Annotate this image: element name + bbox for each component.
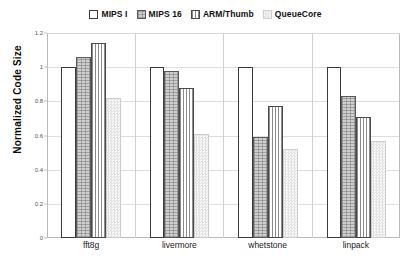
legend-swatch-icon: [89, 10, 98, 19]
y-tick-label: 0.8: [35, 98, 43, 104]
x-axis-label-fft8g: fft8g: [47, 240, 135, 250]
bar-fft8g-mips-16[interactable]: [76, 57, 91, 238]
x-axis-label-livermore: livermore: [135, 240, 223, 250]
legend-item-label: ARM/Thumb: [203, 9, 254, 19]
bar-whetstone-queuecore[interactable]: [283, 149, 298, 238]
y-tick-label: 0.2: [35, 201, 43, 207]
bar-chart: MIPS IMIPS 16ARM/ThumbQueueCore Normaliz…: [0, 0, 411, 267]
legend-swatch-icon: [191, 10, 200, 19]
bars-container: [224, 33, 312, 238]
bar-fft8g-arm-thumb[interactable]: [91, 43, 106, 238]
y-tick-label: 0: [40, 235, 43, 241]
y-tick-label: 1: [40, 64, 43, 70]
legend-item-mips-16[interactable]: MIPS 16: [137, 9, 182, 19]
bar-group-fft8g: [47, 33, 136, 238]
bar-fft8g-mips-i[interactable]: [61, 67, 76, 238]
x-axis-label-linpack: linpack: [312, 240, 400, 250]
legend-item-label: QueueCore: [275, 9, 322, 19]
chart-legend: MIPS IMIPS 16ARM/ThumbQueueCore: [0, 9, 411, 19]
bar-fft8g-queuecore[interactable]: [106, 98, 121, 238]
bars-container: [313, 33, 401, 238]
bars-container: [47, 33, 135, 238]
y-tick-label: 1.2: [35, 30, 43, 36]
bar-livermore-mips-16[interactable]: [164, 71, 179, 238]
x-axis-labels: fft8glivermorewhetstonelinpack: [47, 240, 400, 250]
legend-item-label: MIPS 16: [149, 9, 182, 19]
bar-linpack-arm-thumb[interactable]: [356, 117, 371, 238]
y-axis-ticks: 00.20.40.60.811.2: [0, 33, 47, 238]
bar-livermore-queuecore[interactable]: [194, 134, 209, 238]
bar-linpack-mips-i[interactable]: [327, 67, 342, 238]
bar-whetstone-mips-i[interactable]: [238, 67, 253, 238]
bars-container: [136, 33, 224, 238]
legend-item-queuecore[interactable]: QueueCore: [263, 9, 322, 19]
bar-group-livermore: [136, 33, 225, 238]
legend-item-arm-thumb[interactable]: ARM/Thumb: [191, 9, 254, 19]
bar-whetstone-arm-thumb[interactable]: [268, 106, 283, 238]
bar-groups: [47, 33, 400, 238]
legend-item-mips-i[interactable]: MIPS I: [89, 9, 127, 19]
legend-swatch-icon: [137, 10, 146, 19]
bar-livermore-mips-i[interactable]: [150, 67, 165, 238]
y-tick-label: 0.4: [35, 167, 43, 173]
y-tick-label: 0.6: [35, 133, 43, 139]
bar-whetstone-mips-16[interactable]: [253, 137, 268, 238]
bar-group-whetstone: [224, 33, 313, 238]
bar-group-linpack: [313, 33, 401, 238]
bar-linpack-mips-16[interactable]: [341, 96, 356, 238]
legend-item-label: MIPS I: [101, 9, 127, 19]
bar-linpack-queuecore[interactable]: [371, 141, 386, 238]
legend-swatch-icon: [263, 10, 272, 19]
x-axis-label-whetstone: whetstone: [224, 240, 312, 250]
bar-livermore-arm-thumb[interactable]: [179, 88, 194, 238]
